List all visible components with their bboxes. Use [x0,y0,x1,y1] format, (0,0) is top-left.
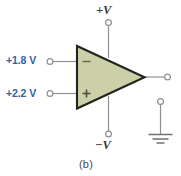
terminal-negative-supply[interactable] [106,131,112,137]
positive-supply-label: +V [96,4,111,17]
figure-caption: (b) [79,159,93,170]
inverting-input-voltage-label: +1.8 V [6,55,36,66]
opamp-triangle-body [77,46,145,109]
terminal-ground[interactable] [158,99,164,105]
ground-symbol-icon [149,135,173,144]
terminal-positive-supply[interactable] [106,20,112,26]
terminal-inverting-input[interactable] [47,59,53,65]
terminal-noninverting-input[interactable] [47,91,53,97]
negative-supply-label: −V [95,139,111,152]
opamp-comparator-figure: +1.8 V +2.2 V +V −V (b) [0,0,181,176]
noninverting-input-voltage-label: +2.2 V [6,88,36,99]
terminal-output[interactable] [165,74,171,80]
